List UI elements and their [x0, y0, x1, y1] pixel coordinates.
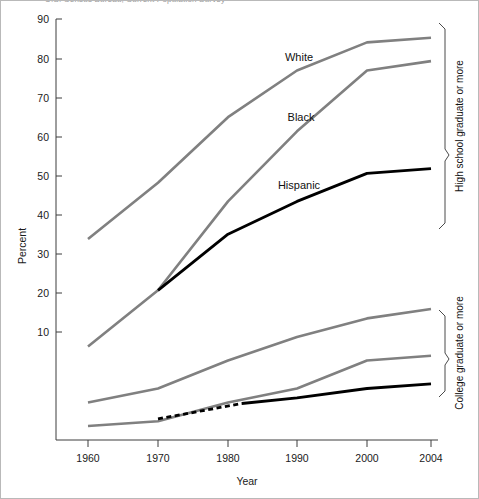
y-tick-label-20: 20 — [37, 287, 49, 299]
y-tick-label-10: 10 — [37, 326, 49, 338]
y-tick-label-40: 40 — [37, 209, 49, 221]
x-tick-label-1970: 1970 — [146, 452, 170, 464]
y-tick-label-30: 30 — [37, 248, 49, 260]
annotation-white: White — [285, 51, 313, 63]
bracket-label-college: College graduate or more — [454, 296, 465, 410]
chart-figure: U.S. Census Bureau, Current Population S… — [0, 0, 479, 499]
x-tick-label-1960: 1960 — [76, 452, 100, 464]
y-axis-title: Percent — [16, 228, 28, 264]
y-tick-label-60: 60 — [37, 131, 49, 143]
x-axis-title: Year — [236, 475, 258, 487]
x-tick-label-1980: 1980 — [216, 452, 240, 464]
series-group-high-school — [88, 38, 431, 347]
annotation-black: Black — [288, 111, 315, 123]
x-tick-label-2004: 2004 — [419, 452, 443, 464]
bracket-high-school-shape — [439, 23, 449, 229]
y-tick-label-80: 80 — [37, 53, 49, 65]
y-axis: 90 80 70 60 50 40 30 20 10 Percent — [16, 13, 62, 440]
line-chart: 90 80 70 60 50 40 30 20 10 Percent 1960 … — [1, 1, 479, 499]
series-line-black-college — [88, 356, 431, 426]
annotation-hispanic: Hispanic — [278, 179, 321, 191]
y-tick-label-70: 70 — [37, 92, 49, 104]
y-tick-label-50: 50 — [37, 170, 49, 182]
series-line-hispanic-college-dashed — [158, 404, 242, 419]
x-tick-label-2000: 2000 — [355, 452, 379, 464]
bracket-high-school: High school graduate or more — [439, 23, 465, 229]
series-group-college — [88, 309, 431, 426]
x-axis: 1960 1970 1980 1990 2000 2004 Year — [56, 440, 443, 487]
bracket-college-shape — [439, 310, 449, 397]
series-line-black-high-school — [88, 61, 431, 346]
bracket-label-high-school: High school graduate or more — [454, 60, 465, 192]
x-tick-label-1990: 1990 — [285, 452, 309, 464]
y-tick-label-90: 90 — [37, 13, 49, 25]
bracket-college: College graduate or more — [439, 296, 465, 410]
